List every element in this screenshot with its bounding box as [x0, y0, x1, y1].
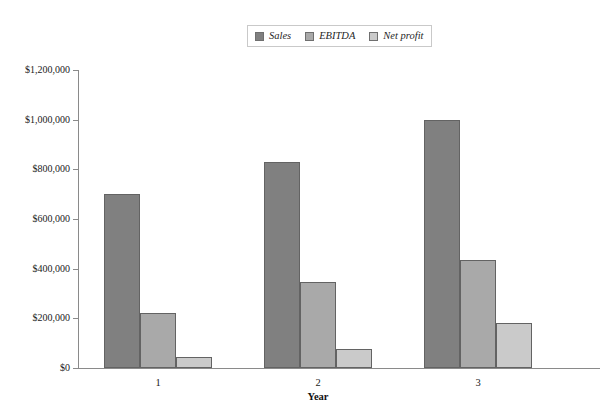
y-axis-line: [78, 70, 79, 368]
x-axis-title: Year: [78, 392, 558, 403]
y-axis-tick-label: $600,000: [33, 214, 71, 224]
x-axis-tick-label: 1: [78, 378, 238, 389]
bar-group: [264, 70, 372, 368]
y-axis-tick-label: $800,000: [33, 164, 71, 174]
legend-label: Net profit: [383, 31, 423, 42]
y-axis-labels: $0$200,000$400,000$600,000$800,000$1,000…: [0, 70, 70, 368]
y-axis-tick: [73, 318, 78, 319]
y-axis-tick-label: $1,200,000: [25, 65, 70, 75]
legend-item-net-profit[interactable]: Net profit: [369, 31, 423, 42]
plot-area: 123: [78, 70, 558, 368]
legend-item-ebitda[interactable]: EBITDA: [305, 31, 355, 42]
x-axis-tick-label: 3: [398, 378, 558, 389]
bar-net-profit-year-3[interactable]: [496, 323, 532, 368]
legend-swatch-icon: [255, 32, 264, 41]
x-axis-tick-label: 2: [238, 378, 398, 389]
bar-sales-year-2[interactable]: [264, 162, 300, 368]
bar-sales-year-1[interactable]: [104, 194, 140, 368]
bar-sales-year-3[interactable]: [424, 120, 460, 368]
bar-chart: SalesEBITDANet profit $0$200,000$400,000…: [0, 0, 602, 410]
x-axis-line: [78, 368, 600, 369]
y-axis-tick-label: $400,000: [33, 264, 71, 274]
legend-swatch-icon: [305, 32, 314, 41]
bar-ebitda-year-3[interactable]: [460, 260, 496, 368]
bar-ebitda-year-1[interactable]: [140, 313, 176, 368]
y-axis-tick: [73, 169, 78, 170]
legend-label: Sales: [269, 31, 291, 42]
y-axis-tick: [73, 219, 78, 220]
legend-label: EBITDA: [319, 31, 355, 42]
y-axis-tick: [73, 120, 78, 121]
y-axis-tick-label: $0: [60, 363, 70, 373]
legend-item-sales[interactable]: Sales: [255, 31, 291, 42]
bar-net-profit-year-2[interactable]: [336, 349, 372, 368]
y-axis-tick-label: $1,000,000: [25, 115, 70, 125]
bar-ebitda-year-2[interactable]: [300, 282, 336, 368]
legend-swatch-icon: [369, 32, 378, 41]
y-axis-tick-label: $200,000: [33, 313, 71, 323]
bar-group: [424, 70, 532, 368]
y-axis-tick: [73, 368, 78, 369]
y-axis-tick: [73, 70, 78, 71]
chart-legend: SalesEBITDANet profit: [247, 25, 432, 47]
bar-group: [104, 70, 212, 368]
y-axis-tick: [73, 269, 78, 270]
bar-net-profit-year-1[interactable]: [176, 357, 212, 368]
